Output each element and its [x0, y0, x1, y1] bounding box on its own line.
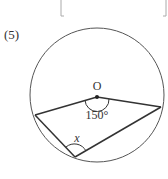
geometry-diagram: O 150° x	[0, 0, 168, 179]
center-point	[95, 95, 99, 99]
answer-box-bracket	[61, 0, 166, 16]
quadrilateral-lines	[35, 97, 161, 157]
center-label: O	[93, 79, 102, 93]
unknown-angle-label: x	[73, 131, 80, 145]
central-angle-label: 150°	[86, 108, 109, 122]
